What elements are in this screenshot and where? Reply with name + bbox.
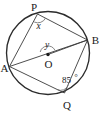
label-angle-85: 85 [62,75,72,85]
label-point-Q: Q [63,99,71,111]
label-point-O: O [45,58,53,70]
circle-geometry-canvas: P B A Q O x y 85 ° [0,0,111,113]
label-angle-x: x [35,21,41,31]
geometry-diagram: P B A Q O x y 85 ° [0,0,111,113]
label-point-B: B [92,34,99,46]
degree-symbol-icon: ° [74,72,78,82]
centre-point-dot [46,53,49,56]
label-point-P: P [31,1,37,13]
chord-QB [65,40,88,93]
label-point-A: A [1,62,9,74]
radius-OB [48,40,88,55]
chord-AQ [10,67,65,94]
label-angle-y: y [44,40,50,50]
